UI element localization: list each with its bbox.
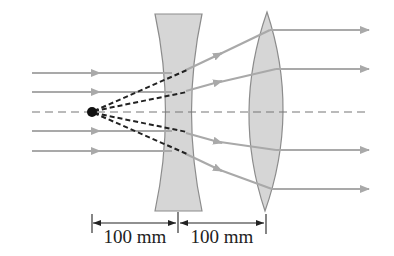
outgoing-rays xyxy=(270,30,369,189)
dimension-label-2: 100 mm xyxy=(191,226,254,247)
dimension-label-1: 100 mm xyxy=(104,226,167,247)
lens-system-diagram: 100 mm 100 mm xyxy=(0,0,394,256)
point-source xyxy=(87,107,97,117)
